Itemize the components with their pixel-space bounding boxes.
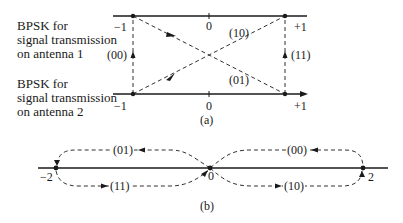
transition-01-arrow — [166, 32, 176, 37]
transition-11-arrow — [283, 51, 288, 58]
state-dot — [283, 92, 287, 96]
state-dot — [283, 14, 287, 18]
loop-01-arrow — [138, 148, 145, 153]
transition-10-label: (10) — [229, 27, 249, 39]
antenna2-axis-arrowhead — [300, 91, 308, 97]
loop-00-arrow — [311, 148, 318, 153]
loop-11-path — [56, 171, 208, 186]
point-label-minus-2: −2 — [40, 171, 53, 183]
top-tick-minus1: −1 — [114, 21, 127, 33]
bottom-tick-minus1: −1 — [114, 100, 127, 112]
point-label-0: 0 — [208, 170, 214, 182]
transition-11-label: (11) — [291, 49, 311, 61]
loop-10-arrow — [275, 184, 282, 189]
caption-a: (a) — [200, 114, 213, 126]
state-dot — [131, 92, 135, 96]
loop-00-label: (00) — [286, 144, 308, 156]
top-tick-plus1: +1 — [294, 21, 307, 33]
bottom-tick-zero: 0 — [206, 100, 212, 112]
loop-01-label: (01) — [112, 144, 134, 156]
loop-11-label: (11) — [109, 180, 131, 192]
state-dot — [131, 14, 135, 18]
transition-00-arrow — [131, 51, 136, 58]
loop-10-end-arrow — [359, 171, 365, 177]
loop-01-end-arrow — [54, 160, 60, 166]
point-dot-minus-2 — [54, 166, 59, 171]
transition-01-label: (01) — [229, 74, 249, 86]
transition-00-label: (00) — [107, 49, 127, 61]
transition-10-arrow — [166, 73, 175, 81]
antenna2-label: BPSK for signal transmission on antenna … — [17, 77, 117, 119]
point-dot-2 — [361, 166, 366, 171]
top-tick-zero: 0 — [206, 20, 212, 32]
caption-b: (b) — [200, 200, 214, 212]
loop-10-label: (10) — [283, 180, 305, 192]
loop-11-end-arrow — [201, 170, 208, 177]
point-label-2: 2 — [368, 171, 374, 183]
loop-11-arrow — [101, 184, 108, 189]
antenna1-label: BPSK for signal transmission on antenna … — [17, 19, 117, 61]
bottom-tick-plus1: +1 — [294, 100, 307, 112]
